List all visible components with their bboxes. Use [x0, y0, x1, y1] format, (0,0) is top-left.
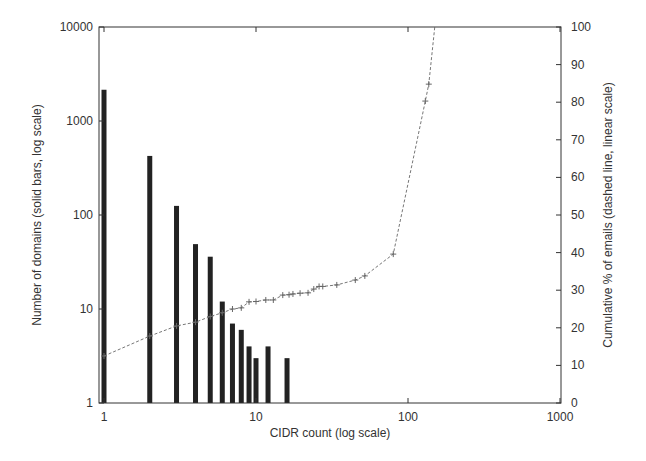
plus-marker-icon [263, 297, 269, 303]
plus-marker-icon [362, 273, 368, 279]
left-y-axis-title: Number of domains (solid bars, log scale… [30, 104, 44, 325]
plus-marker-icon [290, 291, 296, 297]
plus-marker-icon [297, 290, 303, 296]
y2-tick-label: 40 [571, 246, 585, 260]
y2-tick-label: 70 [571, 133, 585, 147]
plus-marker-icon [390, 251, 396, 257]
plus-marker-icon [352, 277, 358, 283]
plus-marker-icon [270, 297, 276, 303]
y2-tick-label: 100 [571, 20, 591, 34]
y2-tick-label: 0 [571, 396, 578, 410]
y-tick-label: 1000 [66, 114, 93, 128]
plot-frame [99, 27, 561, 403]
bar [174, 206, 179, 403]
x-axis-ticks: 1101001000 [101, 27, 574, 424]
y2-tick-label: 20 [571, 321, 585, 335]
chart: 1101001000 110100100010000 0102030405060… [0, 0, 646, 461]
x-tick-label: 1 [101, 410, 108, 424]
plus-marker-icon [280, 292, 286, 298]
y2-tick-label: 10 [571, 358, 585, 372]
right-y-axis-title: Cumulative % of emails (dashed line, lin… [601, 82, 615, 347]
cumulative-line-path [104, 27, 435, 356]
x-tick-label: 10 [249, 410, 263, 424]
bar [208, 257, 213, 403]
y-tick-label: 100 [73, 208, 93, 222]
y2-tick-label: 80 [571, 95, 585, 109]
plus-marker-icon [253, 298, 259, 304]
plus-marker-icon [229, 306, 235, 312]
plus-marker-icon [320, 283, 326, 289]
plus-marker-icon [305, 290, 311, 296]
y2-tick-label: 50 [571, 208, 585, 222]
plus-marker-icon [238, 305, 244, 311]
domain-count-bars [102, 90, 290, 403]
bar [254, 358, 259, 403]
plus-marker-icon [422, 98, 428, 104]
bar [266, 346, 271, 403]
bar [285, 358, 290, 403]
bar [147, 156, 152, 403]
bar [230, 324, 235, 403]
plus-marker-icon [286, 292, 292, 298]
y2-tick-label: 60 [571, 170, 585, 184]
x-axis-title: CIDR count (log scale) [270, 426, 391, 440]
y-tick-label: 1 [86, 396, 93, 410]
plus-marker-icon [426, 81, 432, 87]
bar [239, 330, 244, 403]
left-y-axis-ticks: 110100100010000 [60, 20, 104, 410]
bar [247, 346, 252, 403]
plus-marker-icon [334, 282, 340, 288]
x-tick-label: 100 [398, 410, 418, 424]
y2-tick-label: 30 [571, 283, 585, 297]
bar [220, 302, 225, 403]
y2-tick-label: 90 [571, 58, 585, 72]
plus-marker-icon [311, 286, 317, 292]
x-tick-label: 1000 [547, 410, 574, 424]
y-tick-label: 10000 [60, 20, 94, 34]
y-tick-label: 10 [80, 302, 94, 316]
